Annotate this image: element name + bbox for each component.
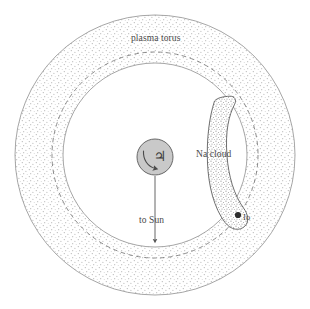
plasma-torus-label: plasma torus [131, 34, 180, 44]
to-sun-label: to Sun [139, 216, 164, 226]
jupiter-symbol: ♃ [154, 149, 167, 164]
na-cloud-label: Na cloud [196, 150, 231, 160]
figure-root: ♃ plasma torus Na cloud to Sun Io [0, 0, 310, 309]
diagram-canvas: ♃ [0, 0, 310, 309]
jupiter: ♃ [137, 139, 173, 175]
io-label: Io [243, 213, 250, 222]
io-moon [235, 212, 241, 218]
